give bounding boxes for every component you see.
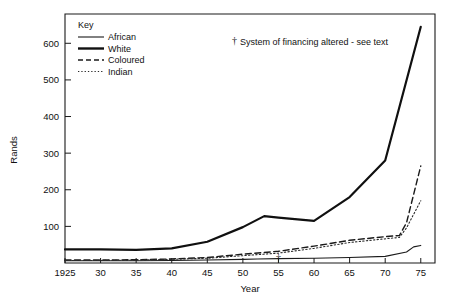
y-tick-label: 200 [43,184,59,195]
legend-label-coloured: Coloured [108,55,145,65]
x-tick-label: 60 [309,267,320,278]
x-tick-label: 40 [166,267,177,278]
y-tick-label: 500 [43,74,59,85]
x-tick-label: 65 [344,267,355,278]
y-axis-ticks: 100200300400500600 [43,38,71,232]
chart-page: 100200300400500600 192530354045505560657… [0,0,457,301]
x-tick-label: 55 [273,267,284,278]
x-tick-label: 1925 [54,267,75,278]
line-chart: 100200300400500600 192530354045505560657… [0,0,457,301]
y-tick-label: 300 [43,148,59,159]
x-tick-label: 30 [95,267,106,278]
financing-note-dagger-icon: † [232,35,237,46]
legend-title: Key [78,20,94,30]
annotations-group: †System of financing altered - see text† [232,35,389,263]
x-tick-label: 70 [380,267,391,278]
y-axis-title: Rands [8,136,19,164]
chart-legend: KeyAfricanWhiteColouredIndian [78,20,145,77]
series-line-indian [65,201,421,261]
x-tick-label: 75 [415,267,426,278]
legend-label-indian: Indian [108,67,133,77]
legend-label-white: White [108,44,131,54]
financing-note-text: System of financing altered - see text [240,37,389,47]
y-tick-label: 600 [43,38,59,49]
x-axis-title: Year [240,283,259,294]
x-tick-label: 35 [131,267,142,278]
x-tick-label: 50 [238,267,249,278]
legend-label-african: African [108,32,136,42]
y-tick-label: 100 [43,221,59,232]
x-tick-label: 45 [202,267,213,278]
y-tick-label: 400 [43,111,59,122]
financing-marker-dagger-icon: † [276,252,281,263]
